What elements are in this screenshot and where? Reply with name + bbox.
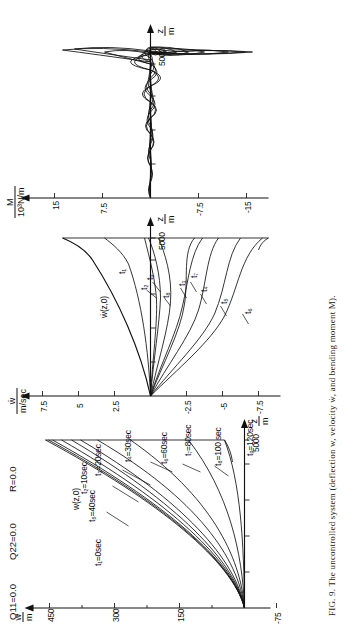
deflection-label-t2: t₂=10sec (78, 462, 88, 494)
velocity-ytick-7-5: 7.5 (38, 401, 48, 412)
moment-ytick-7-5: 7.5 (98, 203, 108, 214)
deflection-label-t4: t₄=30sec (122, 430, 132, 462)
velocity-label-t2: t₂ (138, 285, 148, 290)
moment-x-end-label: 5000 (156, 48, 166, 66)
velocity-x-den: m (165, 215, 175, 225)
deflection-ytick-150: 150 (175, 609, 185, 622)
deflection-panel: Q11=0.0 Q22=0.0 R=0.0 (0, 412, 300, 622)
moment-y-num: M (4, 186, 15, 218)
velocity-label-t8: t₈ (160, 293, 170, 299)
velocity-label-wdotz0: ẇ(z,0) (98, 296, 108, 318)
velocity-label-t5: t₅ (218, 299, 228, 304)
param-q22: Q22=0.0 (6, 523, 17, 560)
moment-ytick-15: 15 (50, 201, 60, 210)
deflection-ytick-450: 450 (45, 609, 55, 622)
deflection-label-t8: t₈=100 sec (212, 427, 222, 466)
moment-x-den: m (165, 27, 175, 37)
velocity-y-axis-title: ẇ m/sec (6, 388, 28, 414)
deflection-y-axis-title: w m (12, 613, 34, 623)
velocity-ytick--2-5: -2.5 (182, 401, 192, 414)
moment-y-axis-title: M 10³N/m (4, 186, 26, 218)
moment-ytick--7-5: -7.5 (194, 203, 204, 216)
deflection-label-t1: t₁=0sec (92, 539, 102, 566)
velocity-y-num: ẇ (6, 388, 17, 414)
deflection-ytick--75: -75 (272, 613, 282, 624)
velocity-label-t1: t₁ (116, 269, 126, 274)
moment-x-axis-title: z m (154, 27, 176, 37)
velocity-x-axis-title: z m (154, 215, 176, 225)
velocity-plot (0, 214, 300, 410)
deflection-label-t6: t₆=60sec (158, 432, 168, 464)
deflection-label-t9: t₉=120sec (244, 420, 254, 456)
velocity-panel: 7.5 5 2.5 -2.5 -5 -7.5 ẇ m/sec 5000 z m … (0, 214, 300, 410)
moment-x-num: z (154, 27, 165, 37)
velocity-x-num: z (154, 215, 165, 225)
velocity-label-t9: t₉ (144, 275, 154, 280)
velocity-label-t3: t₃ (176, 281, 186, 286)
param-r: R=0.0 (6, 466, 17, 492)
deflection-x-den: m (259, 417, 269, 427)
deflection-ytick-300: 300 (110, 609, 120, 622)
velocity-label-t4: t₄ (198, 287, 208, 292)
figure-canvas: Q11=0.0 Q22=0.0 R=0.0 (0, 0, 363, 632)
moment-ytick--15: -15 (242, 202, 252, 213)
velocity-ytick-2-5: 2.5 (110, 401, 120, 412)
moment-panel: 15 7.5 -7.5 -15 M 10³N/m 5000 z m (0, 12, 300, 212)
deflection-label-t3: t₃=20sec (92, 444, 102, 476)
moment-plot (0, 12, 300, 212)
velocity-ytick--5: -5 (218, 403, 228, 410)
moment-y-den: 10³N/m (15, 186, 25, 218)
figure-caption: FIG. 9. The uncontrolled system (deflect… (326, 295, 336, 616)
velocity-x-end-label: 5000 (156, 232, 166, 250)
deflection-y-num: w (12, 613, 23, 623)
velocity-ytick-5: 5 (74, 404, 84, 408)
velocity-label-t7: t₇ (188, 273, 198, 278)
deflection-label-t5: t₅=40sec (86, 490, 96, 522)
velocity-ytick--7-5: -7.5 (254, 401, 264, 414)
deflection-label-t7: t₇=80sec (182, 425, 192, 456)
velocity-y-den: m/sec (17, 388, 27, 414)
deflection-y-den: m (23, 613, 33, 623)
velocity-label-t6: t₆ (242, 309, 252, 314)
